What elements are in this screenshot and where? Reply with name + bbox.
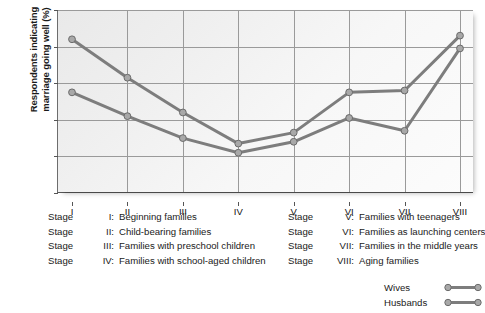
data-point xyxy=(346,89,353,96)
data-point xyxy=(69,89,76,96)
stage-numeral: VI: xyxy=(324,225,359,240)
stage-numeral: III: xyxy=(84,239,119,254)
stage-word: Stage xyxy=(288,239,324,254)
stage-word: Stage xyxy=(288,254,324,269)
stage-description: Aging families xyxy=(359,254,419,269)
legend-marker xyxy=(444,282,482,293)
legend-label: Husbands xyxy=(384,295,444,310)
y-axis-title-line1: Respondents indicating xyxy=(28,7,39,112)
y-axis-title-line2: marriage going well (%) xyxy=(39,7,50,111)
stage-description: Families as launching centers xyxy=(359,225,485,240)
stage-key-left-row: StageII:Child-bearing families xyxy=(48,225,266,240)
data-point xyxy=(124,74,131,81)
data-point xyxy=(290,129,297,136)
legend-item-wives: Wives xyxy=(384,280,482,295)
data-point xyxy=(235,149,242,156)
series-legend: WivesHusbands xyxy=(384,280,482,310)
data-point xyxy=(290,138,297,145)
data-point xyxy=(401,87,408,94)
stage-word: Stage xyxy=(48,210,84,225)
stage-key-right-row: StageVIII:Aging families xyxy=(288,254,485,269)
legend-item-husbands: Husbands xyxy=(384,295,482,310)
stage-word: Stage xyxy=(288,210,324,225)
y-axis-tick xyxy=(54,193,58,194)
data-point xyxy=(457,45,464,52)
stage-key-left-row: StageIV:Families with school-aged childr… xyxy=(48,254,266,269)
stage-description: Child-bearing families xyxy=(119,225,211,240)
legend-label: Wives xyxy=(384,280,444,295)
legend-marker xyxy=(444,297,482,308)
stage-key-left-row: StageI:Beginning families xyxy=(48,210,266,225)
stage-word: Stage xyxy=(48,254,84,269)
stage-numeral: V: xyxy=(324,210,359,225)
plot-area: 01020304050IIIIIIIVVVIVIIVIII xyxy=(57,10,473,193)
stage-numeral: II: xyxy=(84,225,119,240)
stage-key-left: StageI:Beginning familiesStageII:Child-b… xyxy=(48,210,266,268)
stage-numeral: I: xyxy=(84,210,119,225)
data-point xyxy=(457,32,464,39)
data-point xyxy=(179,135,186,142)
stage-description: Beginning families xyxy=(119,210,197,225)
stage-description: Families with school-aged children xyxy=(119,254,266,269)
stage-word: Stage xyxy=(48,239,84,254)
series-layer xyxy=(58,10,474,193)
data-point xyxy=(235,140,242,147)
data-point xyxy=(124,113,131,120)
stage-word: Stage xyxy=(288,225,324,240)
stage-description: Families with preschool children xyxy=(119,239,255,254)
stage-numeral: VIII: xyxy=(324,254,359,269)
stage-numeral: IV: xyxy=(84,254,119,269)
data-point xyxy=(346,115,353,122)
data-point xyxy=(69,36,76,43)
stage-key-right-row: StageV:Families with teenagers xyxy=(288,210,485,225)
stage-key-right-row: StageVI:Families as launching centers xyxy=(288,225,485,240)
chart-figure: Respondents indicating marriage going we… xyxy=(0,0,485,313)
stage-description: Families with teenagers xyxy=(359,210,460,225)
stage-word: Stage xyxy=(48,225,84,240)
data-point xyxy=(401,127,408,134)
stage-description: Families in the middle years xyxy=(359,239,478,254)
stage-numeral: VII: xyxy=(324,239,359,254)
stage-key-left-row: StageIII:Families with preschool childre… xyxy=(48,239,266,254)
y-axis-title: Respondents indicating marriage going we… xyxy=(28,0,51,155)
stage-key-right: StageV:Families with teenagersStageVI:Fa… xyxy=(288,210,485,268)
data-point xyxy=(179,109,186,116)
stage-key-right-row: StageVII:Families in the middle years xyxy=(288,239,485,254)
